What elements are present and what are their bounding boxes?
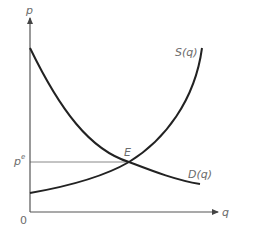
supply-curve-label: S(q) [175, 46, 198, 59]
supply-curve [30, 48, 202, 193]
diagram-canvas: p q 0 S(q) D(q) E p e [0, 0, 253, 235]
demand-curve-label: D(q) [188, 168, 212, 181]
origin-label: 0 [20, 214, 27, 227]
supply-demand-diagram: p q 0 S(q) D(q) E p e [0, 0, 253, 235]
equilibrium-price-superscript: e [21, 153, 25, 161]
y-axis-label: p [25, 4, 33, 17]
demand-curve [30, 48, 200, 184]
equilibrium-price-label: p [13, 155, 21, 168]
equilibrium-point-label: E [124, 146, 131, 159]
x-axis-label: q [222, 206, 229, 219]
